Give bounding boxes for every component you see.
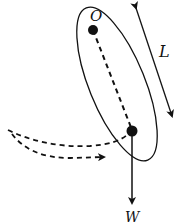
length-label: L <box>158 42 170 61</box>
pivot-label: O <box>90 7 102 25</box>
weight-label: W <box>125 209 141 224</box>
pendulum-diagram: O L W <box>0 0 182 224</box>
dashed-string <box>93 30 132 130</box>
trajectory-ellipse <box>60 0 173 171</box>
length-arrow <box>136 8 172 116</box>
pivot-point <box>88 25 98 35</box>
